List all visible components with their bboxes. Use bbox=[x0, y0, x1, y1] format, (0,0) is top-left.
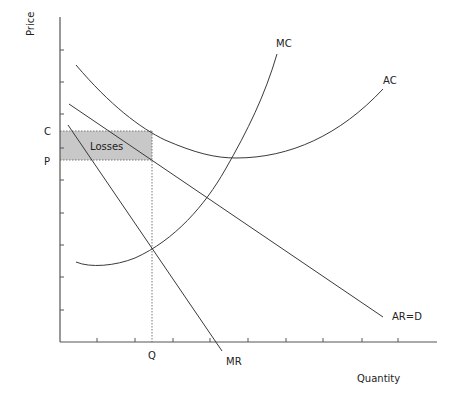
y-axis-label: Price bbox=[25, 12, 36, 36]
ar-demand-label: AR=D bbox=[392, 311, 422, 322]
quantity-label-q: Q bbox=[148, 350, 156, 361]
ac-label: AC bbox=[383, 75, 397, 86]
losses-label: Losses bbox=[90, 141, 123, 152]
price-label-c: C bbox=[44, 126, 51, 137]
mr-label: MR bbox=[226, 356, 242, 367]
diagram-canvas: Price Quantity C P Q Losses MC AC AR=D M… bbox=[0, 0, 457, 403]
price-label-p: P bbox=[44, 156, 50, 167]
x-axis-label: Quantity bbox=[357, 373, 400, 384]
ar-demand-line bbox=[69, 104, 383, 317]
cost-revenue-diagram: Price Quantity C P Q Losses MC AC AR=D M… bbox=[0, 0, 457, 403]
mc-label: MC bbox=[276, 38, 292, 49]
